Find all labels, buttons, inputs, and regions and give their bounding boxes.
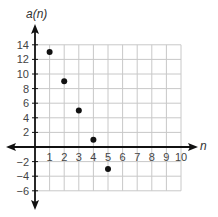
x-tick-label: 4 xyxy=(90,151,96,163)
y-tick-label: 14 xyxy=(17,39,29,51)
y-tick-label: 2 xyxy=(23,126,29,138)
data-point xyxy=(47,49,53,55)
x-tick-label: 9 xyxy=(163,151,169,163)
y-tick-label: −4 xyxy=(16,170,29,182)
axes xyxy=(6,24,198,210)
x-tick-label: 3 xyxy=(76,151,82,163)
x-tick-label: 2 xyxy=(61,151,67,163)
data-point xyxy=(76,108,82,114)
x-tick-label: 8 xyxy=(149,151,155,163)
y-axis-label: a(n) xyxy=(26,7,47,21)
y-tick-label: 12 xyxy=(17,53,29,65)
y-tick-label: 4 xyxy=(23,112,29,124)
scatter-chart: 123456789101412108642−2−4−6 a(n) n xyxy=(0,0,218,217)
x-tick-label: 7 xyxy=(134,151,140,163)
x-tick-label: 1 xyxy=(47,151,53,163)
data-point xyxy=(61,78,67,84)
x-tick-label: 6 xyxy=(120,151,126,163)
data-point xyxy=(90,137,96,143)
x-tick-label: 10 xyxy=(175,151,187,163)
y-tick-label: 6 xyxy=(23,97,29,109)
x-tick-label: 5 xyxy=(105,151,111,163)
data-point xyxy=(105,166,111,172)
y-tick-label: −6 xyxy=(16,185,29,197)
y-tick-label: 8 xyxy=(23,83,29,95)
y-tick-label: 10 xyxy=(17,68,29,80)
y-tick-label: −2 xyxy=(16,156,29,168)
x-axis-label: n xyxy=(200,139,207,153)
